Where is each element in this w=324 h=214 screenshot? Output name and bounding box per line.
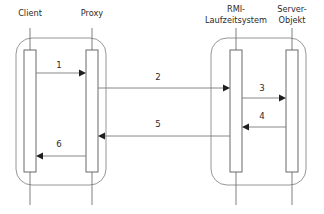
- diagram-canvas: 1 2 3 4: [0, 0, 324, 214]
- message-6: 6: [36, 139, 86, 159]
- message-4: 4: [242, 111, 286, 130]
- message-3: 3: [242, 83, 286, 101]
- messages: 1 2 3 4: [36, 60, 286, 159]
- lifeline-label-rmi-runtime-line1: RMI-: [227, 4, 245, 14]
- lifeline-label-server-objekt-line1: Server-: [277, 4, 306, 14]
- message-2: 2: [98, 72, 230, 91]
- lifeline-label-client: Client: [18, 8, 42, 18]
- message-3-label: 3: [259, 83, 264, 93]
- message-3-arrowhead-icon: [279, 95, 286, 102]
- lifeline-label-proxy: Proxy: [81, 8, 104, 18]
- lifeline-label-server-objekt-line2: Objekt: [279, 15, 307, 25]
- message-4-label: 4: [259, 111, 264, 121]
- message-5-label: 5: [155, 119, 160, 129]
- lifeline-labels: Client Proxy RMI- Laufzeitsystem Server-…: [18, 4, 307, 25]
- lifeline-label-rmi-runtime-line2: Laufzeitsystem: [205, 15, 267, 25]
- message-6-label: 6: [56, 139, 61, 149]
- message-5: 5: [98, 119, 230, 139]
- activation-bars: [24, 50, 298, 172]
- uml-sequence-diagram: 1 2 3 4: [0, 0, 324, 214]
- activation-bar-rmi-runtime: [230, 50, 242, 172]
- activation-bar-server-objekt: [286, 50, 298, 172]
- message-5-arrowhead-icon: [98, 133, 105, 140]
- activation-bar-proxy: [86, 50, 98, 172]
- message-2-arrowhead-icon: [223, 85, 230, 92]
- message-1: 1: [36, 60, 86, 76]
- activation-bar-client: [24, 50, 36, 172]
- message-1-label: 1: [56, 60, 61, 70]
- message-6-arrowhead-icon: [36, 153, 43, 160]
- message-1-arrowhead-icon: [79, 70, 86, 77]
- lifelines: [30, 28, 292, 205]
- message-2-label: 2: [155, 72, 160, 82]
- message-4-arrowhead-icon: [242, 124, 249, 131]
